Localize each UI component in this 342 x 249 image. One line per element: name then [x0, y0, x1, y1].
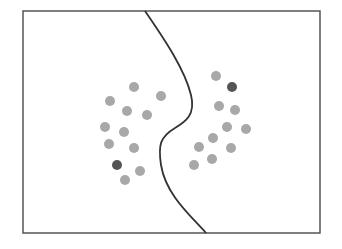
right-cluster-highlighted-point: [227, 82, 237, 92]
right-cluster-point: [241, 124, 251, 134]
plot-frame: [23, 11, 320, 233]
left-cluster-point: [135, 166, 145, 176]
left-cluster-point: [104, 139, 114, 149]
left-cluster-point: [100, 122, 110, 132]
left-cluster-point: [120, 175, 130, 185]
right-cluster-point: [226, 143, 236, 153]
right-cluster-point: [211, 71, 221, 81]
left-cluster-point: [119, 127, 129, 137]
right-cluster-point: [230, 105, 240, 115]
right-cluster-point: [214, 101, 224, 111]
left-cluster-point: [122, 106, 132, 116]
right-cluster-point: [207, 154, 217, 164]
right-cluster-point: [194, 142, 204, 152]
classification-diagram: [0, 0, 342, 249]
left-cluster-highlighted-point: [112, 160, 122, 170]
right-cluster-point: [189, 160, 199, 170]
left-cluster-point: [129, 143, 139, 153]
right-cluster-point: [208, 133, 218, 143]
left-cluster-point: [156, 91, 166, 101]
left-cluster-point: [105, 96, 115, 106]
left-cluster-point: [129, 82, 139, 92]
left-cluster-point: [142, 110, 152, 120]
right-cluster-point: [222, 122, 232, 132]
